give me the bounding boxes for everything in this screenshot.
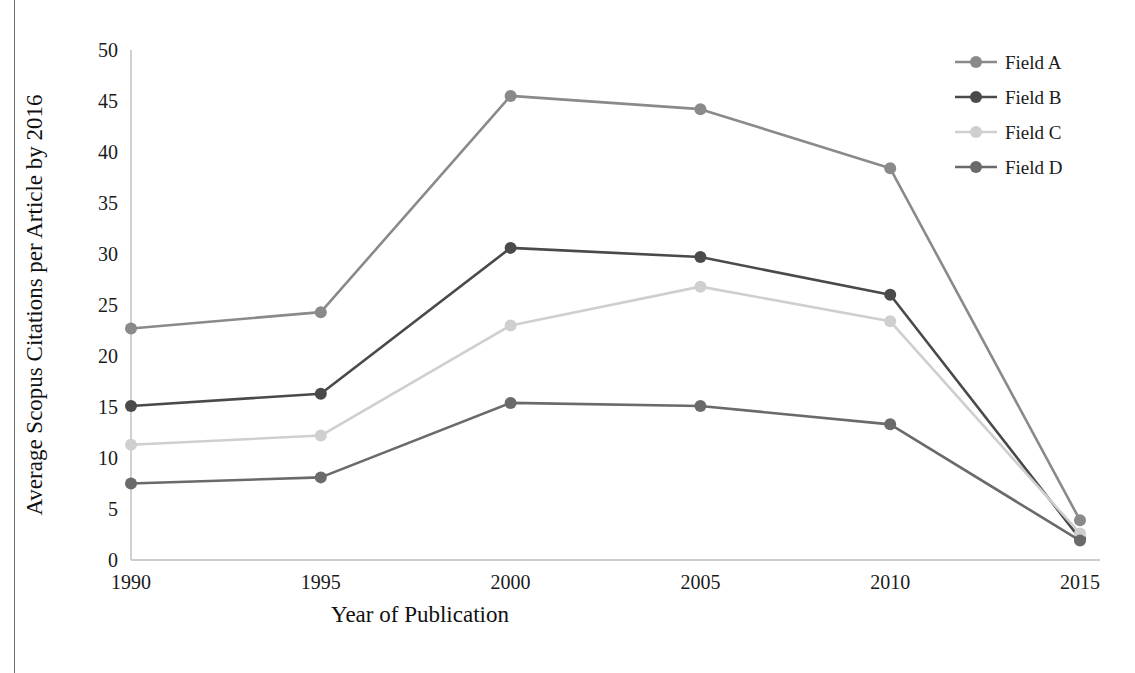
series-field-d <box>125 397 1086 547</box>
data-point-marker <box>125 478 137 490</box>
data-point-marker <box>125 322 137 334</box>
y-tick-label: 35 <box>98 192 118 214</box>
data-point-marker <box>884 315 896 327</box>
x-tick-label: 1995 <box>301 571 341 593</box>
series-line <box>131 403 1080 541</box>
legend-label: Field D <box>1005 157 1063 178</box>
y-tick-label: 15 <box>98 396 118 418</box>
legend-marker-icon <box>970 56 982 68</box>
data-point-marker <box>1074 535 1086 547</box>
data-point-marker <box>505 242 517 254</box>
data-point-marker <box>694 251 706 263</box>
data-point-marker <box>884 418 896 430</box>
series-line <box>131 96 1080 520</box>
legend-item-field-a[interactable]: Field A <box>955 52 1062 73</box>
y-tick-label: 10 <box>98 447 118 469</box>
y-tick-label: 50 <box>98 39 118 61</box>
data-point-marker <box>505 397 517 409</box>
data-point-marker <box>884 162 896 174</box>
data-point-marker <box>694 281 706 293</box>
y-tick-label: 20 <box>98 345 118 367</box>
data-point-marker <box>125 439 137 451</box>
y-tick-label: 40 <box>98 141 118 163</box>
data-point-marker <box>694 400 706 412</box>
y-tick-label: 45 <box>98 90 118 112</box>
x-axis-title: Year of Publication <box>331 602 509 627</box>
y-tick-label: 5 <box>108 498 118 520</box>
x-tick-label: 1990 <box>111 571 151 593</box>
data-point-marker <box>694 103 706 115</box>
series-line <box>131 248 1080 539</box>
legend-marker-icon <box>970 161 982 173</box>
data-point-marker <box>315 430 327 442</box>
y-tick-label: 25 <box>98 294 118 316</box>
series-line <box>131 287 1080 534</box>
y-axis-title: Average Scopus Citations per Article by … <box>22 94 47 515</box>
legend-item-field-c[interactable]: Field C <box>955 122 1061 143</box>
data-point-marker <box>315 471 327 483</box>
series-field-a <box>125 90 1086 526</box>
legend-label: Field C <box>1005 122 1061 143</box>
x-tick-label: 2015 <box>1060 571 1100 593</box>
data-point-marker <box>1074 514 1086 526</box>
legend-item-field-d[interactable]: Field D <box>955 157 1063 178</box>
data-point-marker <box>884 289 896 301</box>
series-field-b <box>125 242 1086 545</box>
data-point-marker <box>125 400 137 412</box>
x-axis-tick-labels: 199019952000200520102015 <box>111 571 1100 593</box>
series-field-c <box>125 281 1086 540</box>
legend-marker-icon <box>970 91 982 103</box>
x-tick-label: 2005 <box>680 571 720 593</box>
y-tick-label: 30 <box>98 243 118 265</box>
legend-label: Field A <box>1005 52 1062 73</box>
chart-figure: 05101520253035404550 1990199520002005201… <box>0 0 1135 673</box>
legend-item-field-b[interactable]: Field B <box>955 87 1061 108</box>
legend-label: Field B <box>1005 87 1061 108</box>
x-tick-label: 2000 <box>491 571 531 593</box>
line-chart-svg: 05101520253035404550 1990199520002005201… <box>0 0 1135 673</box>
x-tick-label: 2010 <box>870 571 910 593</box>
y-tick-label: 0 <box>108 549 118 571</box>
data-point-marker <box>315 306 327 318</box>
data-point-marker <box>505 90 517 102</box>
legend-marker-icon <box>970 126 982 138</box>
y-axis-tick-labels: 05101520253035404550 <box>98 39 118 571</box>
data-point-marker <box>505 319 517 331</box>
data-point-marker <box>315 388 327 400</box>
series-group <box>125 90 1086 547</box>
chart-legend: Field AField BField CField D <box>955 52 1063 178</box>
